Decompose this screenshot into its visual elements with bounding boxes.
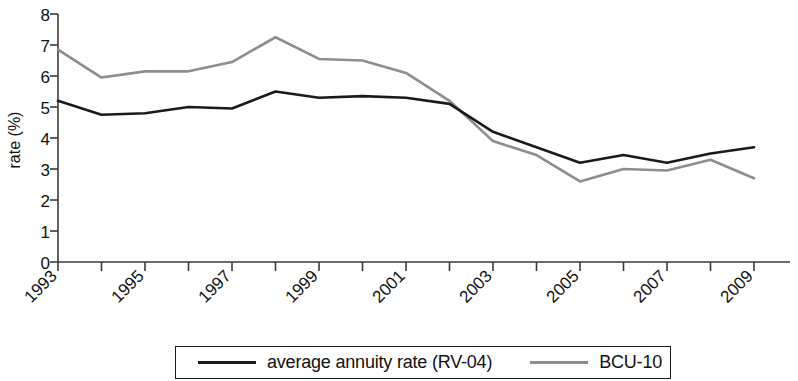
- x-tick-label: 1999: [282, 266, 322, 306]
- legend-entry-bcu-10: BCU-10: [530, 347, 662, 378]
- y-tick-label: 2: [41, 192, 50, 211]
- y-tick-label: 4: [41, 130, 50, 149]
- x-tick-label: 2005: [543, 266, 583, 306]
- y-tick-label: 5: [41, 99, 50, 118]
- y-tick-label: 3: [41, 161, 50, 180]
- x-axis-ticks: [58, 262, 754, 271]
- x-tick-label: 2003: [456, 266, 496, 306]
- y-tick-label: 1: [41, 223, 50, 242]
- y-axis-title: rate (%): [6, 112, 23, 169]
- x-tick-label: 1995: [108, 266, 148, 306]
- y-tick-label: 8: [41, 6, 50, 25]
- x-tick-label: 2007: [630, 266, 670, 306]
- line-chart-plot: rate (%) 8 7 6 5 4 3 2 1 0: [0, 0, 798, 381]
- legend-line-swatch-gray-icon: [530, 361, 588, 364]
- legend-entry-average-annuity-rate: average annuity rate (RV-04): [198, 347, 492, 378]
- chart-figure: rate (%) 8 7 6 5 4 3 2 1 0: [0, 0, 798, 381]
- chart-legend: average annuity rate (RV-04) BCU-10: [175, 346, 671, 379]
- x-tick-label: 1997: [195, 266, 235, 306]
- x-tick-label: 2009: [717, 266, 757, 306]
- legend-line-swatch-black-icon: [198, 361, 256, 364]
- y-tick-label: 7: [41, 37, 50, 56]
- y-tick-labels: 8 7 6 5 4 3 2 1 0: [41, 6, 50, 273]
- x-tick-label: 2001: [369, 266, 409, 306]
- legend-label: BCU-10: [599, 352, 662, 373]
- legend-label: average annuity rate (RV-04): [267, 352, 492, 373]
- y-tick-label: 6: [41, 68, 50, 87]
- y-axis-ticks: [50, 14, 58, 262]
- series-line-average-annuity-rate: [58, 92, 754, 163]
- x-tick-labels: 1993 1995 1997 1999 2001 2003 2005 2007 …: [21, 266, 757, 306]
- x-tick-label: 1993: [21, 266, 61, 306]
